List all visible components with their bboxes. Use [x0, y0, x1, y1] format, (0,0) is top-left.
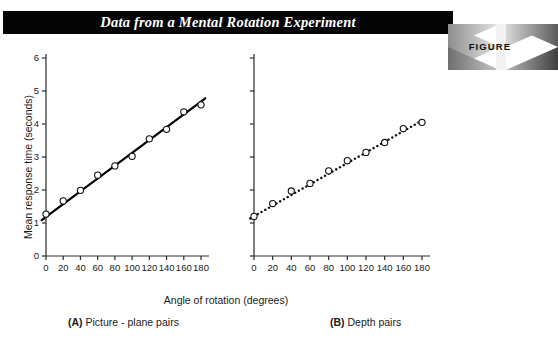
x-tick-label: 180: [414, 262, 430, 273]
caption-panel-b-text: Depth pairs: [348, 316, 402, 328]
data-point: [60, 198, 66, 204]
data-point: [326, 168, 332, 174]
x-tick-label: 100: [124, 262, 140, 273]
caption-panel-b: (B) Depth pairs: [330, 316, 401, 328]
data-point: [288, 188, 294, 194]
x-tick-label: 40: [75, 262, 86, 273]
figure-title: Data from a Mental Rotation Experiment: [3, 11, 453, 34]
data-point: [129, 153, 135, 159]
data-point: [198, 102, 204, 108]
x-tick-label: 60: [305, 262, 316, 273]
data-point: [270, 200, 276, 206]
data-point: [419, 119, 425, 125]
data-point: [181, 109, 187, 115]
data-point: [163, 126, 169, 132]
figure-plot-region: 0123456020406080100120140160180 02040608…: [0, 42, 558, 350]
x-tick-label: 160: [395, 262, 411, 273]
x-axis-label: Angle of rotation (degrees): [0, 294, 452, 306]
x-tick-label: 80: [323, 262, 334, 273]
data-point: [95, 172, 101, 178]
x-tick-label: 100: [339, 262, 355, 273]
data-point: [251, 213, 257, 219]
caption-panel-a-tag: (A): [68, 316, 83, 328]
y-axis-label: Mean response time (seconds): [22, 62, 36, 272]
caption-panel-b-tag: (B): [330, 316, 345, 328]
x-tick-label: 140: [377, 262, 393, 273]
x-tick-label: 120: [358, 262, 374, 273]
data-point: [307, 180, 313, 186]
figure-header-band: Data from a Mental Rotation Experiment: [3, 11, 453, 34]
scatter-plot-b: 020406080100120140160180: [222, 42, 452, 292]
x-tick-label: 60: [92, 262, 103, 273]
data-point: [382, 139, 388, 145]
caption-panel-a-text: Picture - plane pairs: [86, 316, 179, 328]
x-tick-label: 0: [251, 262, 256, 273]
x-tick-label: 0: [43, 262, 48, 273]
data-point: [344, 158, 350, 164]
fit-line: [250, 118, 425, 218]
data-point: [400, 126, 406, 132]
x-tick-label: 20: [267, 262, 278, 273]
data-point: [112, 163, 118, 169]
data-point: [363, 149, 369, 155]
x-tick-label: 20: [58, 262, 69, 273]
data-point: [77, 187, 83, 193]
x-tick-label: 160: [176, 262, 192, 273]
x-tick-label: 180: [193, 262, 209, 273]
data-point: [146, 136, 152, 142]
data-point: [43, 211, 49, 217]
x-tick-label: 80: [110, 262, 121, 273]
x-tick-label: 140: [159, 262, 175, 273]
x-tick-label: 120: [141, 262, 157, 273]
caption-panel-a: (A) Picture - plane pairs: [68, 316, 179, 328]
x-tick-label: 40: [286, 262, 297, 273]
